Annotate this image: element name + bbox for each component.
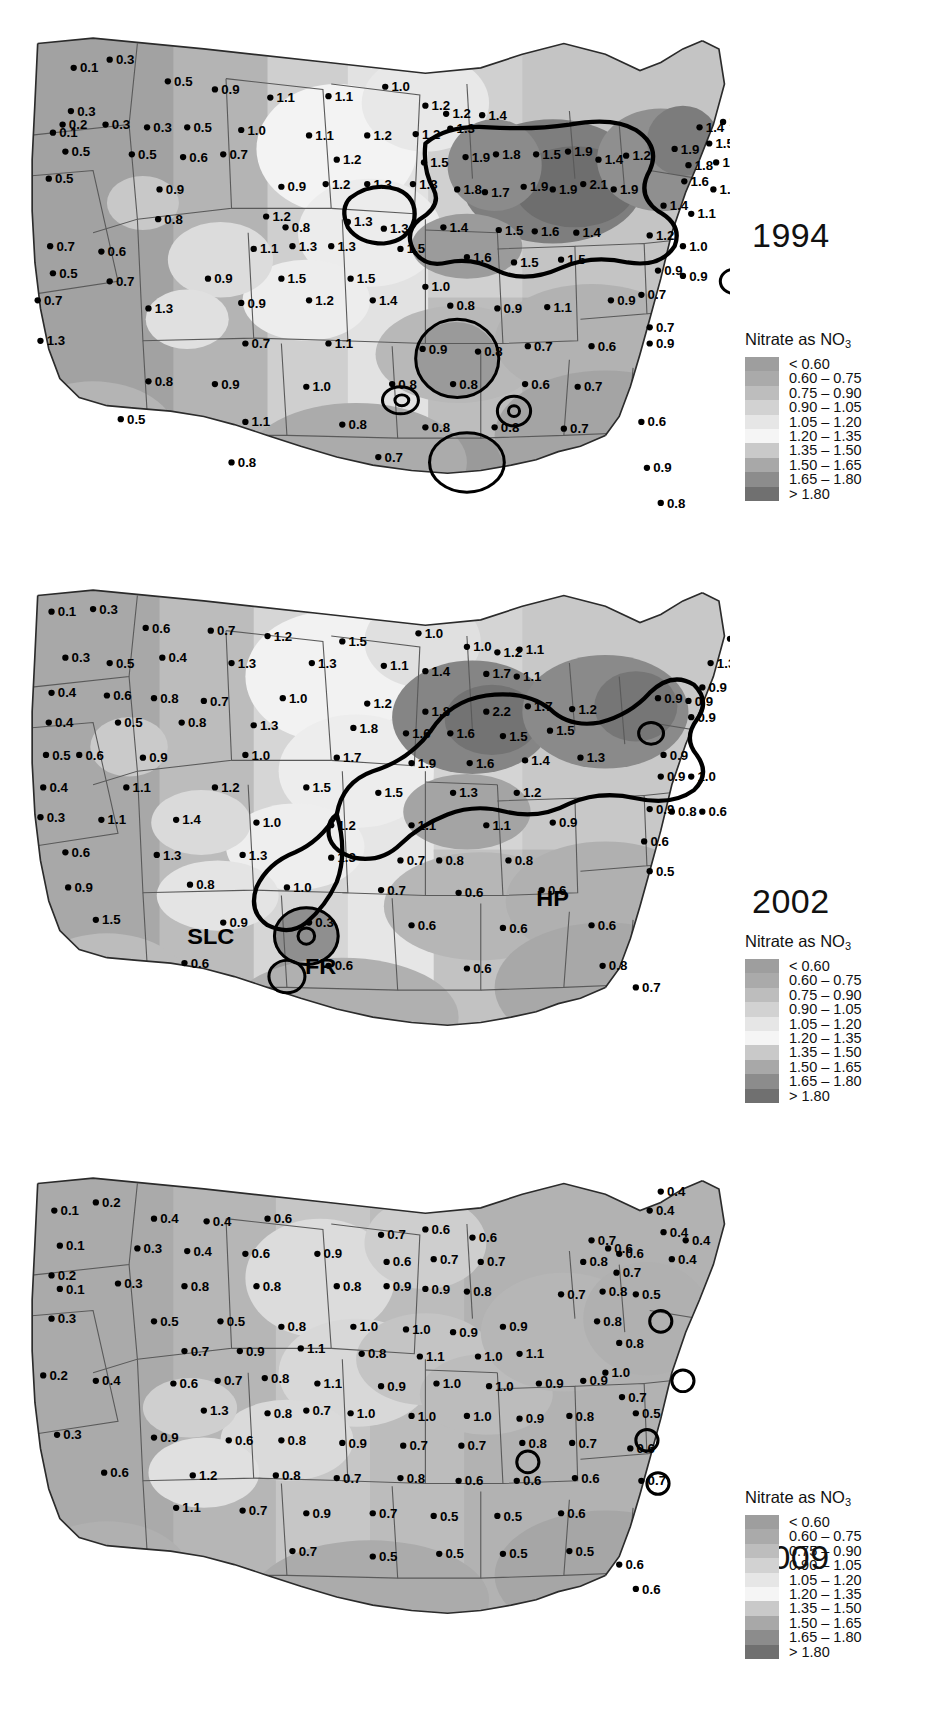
legend-label: 1.65 – 1.80 (789, 1074, 862, 1088)
sample-point-marker (455, 890, 461, 896)
sample-point-value: 0.6 (465, 886, 483, 901)
sample-point-marker (469, 1234, 475, 1240)
sample-point-marker (616, 1561, 622, 1567)
sample-point-marker (611, 186, 617, 192)
sample-point-value: 0.7 (379, 1506, 397, 1521)
sample-point-marker (464, 254, 470, 260)
sample-point-value: 1.8 (695, 158, 713, 173)
sample-point-value: 0.6 (598, 918, 616, 933)
legend-row: 1.20 – 1.35 (745, 1587, 936, 1601)
legend-label: 1.35 – 1.50 (789, 1045, 862, 1059)
sample-point-marker (410, 181, 416, 187)
sample-point-value: 0.8 (196, 877, 214, 892)
sample-point-value: 1.0 (689, 239, 707, 254)
sample-point-value: 1.3 (210, 1403, 228, 1418)
sample-point-value: 1.8 (360, 721, 378, 736)
sample-point-value: 0.9 (689, 269, 707, 284)
legend-label: 0.60 – 0.75 (789, 1529, 862, 1543)
sample-point-marker (303, 1510, 309, 1516)
sample-point-marker (638, 419, 644, 425)
sample-point-marker (558, 1510, 564, 1516)
sample-point-value: 0.8 (678, 804, 696, 819)
sample-point-value: 0.6 (709, 804, 727, 819)
legend-swatch (745, 959, 779, 973)
sample-point-marker (314, 1251, 320, 1257)
sample-point-marker (514, 790, 520, 796)
sample-point-value: 1.1 (182, 1501, 200, 1516)
sample-point-marker (647, 324, 653, 330)
sample-point-marker (43, 752, 49, 758)
sample-point-marker (450, 790, 456, 796)
sample-point-marker (339, 421, 345, 427)
sample-point-value: 1.8 (502, 147, 520, 162)
sample-point-marker (190, 1472, 196, 1478)
sample-point-value: 1.0 (495, 1379, 513, 1394)
sample-point-value: 0.8 (457, 298, 475, 313)
sample-point-marker (558, 257, 564, 263)
sample-point-marker (669, 1256, 675, 1262)
sample-point-marker (51, 1207, 57, 1213)
legend-title: Nitrate as NO3 (745, 330, 936, 350)
sample-point-marker (339, 1440, 345, 1446)
sample-point-marker (347, 276, 353, 282)
sample-point-marker (151, 1434, 157, 1440)
sample-point-value: 1.3 (390, 221, 408, 236)
sample-point-marker (683, 1237, 689, 1243)
sample-point-marker (118, 416, 124, 422)
sample-point-value: 0.3 (72, 650, 90, 665)
sample-point-marker (588, 1237, 594, 1243)
legend-row: > 1.80 (745, 1645, 936, 1659)
map-region-label: HP (536, 886, 569, 912)
legend-swatch (745, 1074, 779, 1088)
sample-point-value: 1.0 (289, 691, 307, 706)
sample-point-value: 1.5 (542, 147, 560, 162)
sample-point-value: 0.5 (174, 74, 192, 89)
sample-point-marker (572, 1475, 578, 1481)
sample-point-value: 0.6 (72, 845, 90, 860)
legend-label: 1.35 – 1.50 (789, 443, 862, 457)
sample-point-value: 0.9 (432, 1282, 450, 1297)
sample-point-marker (397, 857, 403, 863)
sample-point-value: 0.9 (697, 710, 715, 725)
map-canvas-2009: 0.10.20.40.40.60.70.60.60.10.30.40.60.90… (10, 1170, 730, 1670)
sample-point-value: 0.6 (252, 1247, 270, 1262)
sample-point-marker (613, 1270, 619, 1276)
sample-point-marker (215, 1378, 221, 1384)
sample-point-marker (647, 232, 653, 238)
sample-point-marker (408, 822, 414, 828)
sample-point-marker (680, 273, 686, 279)
legend-row: 1.65 – 1.80 (745, 1074, 936, 1088)
sample-point-value: 0.6 (191, 956, 209, 971)
sample-point-marker (334, 1283, 340, 1289)
sample-point-marker (450, 1329, 456, 1335)
sample-point-marker (536, 1380, 542, 1386)
legend-row: 0.60 – 0.75 (745, 973, 936, 987)
sample-point-value: 0.7 (249, 1503, 267, 1518)
sample-point-value: 0.8 (603, 1314, 621, 1329)
legend-label: 1.65 – 1.80 (789, 1630, 862, 1644)
legend-swatch (745, 371, 779, 385)
legend-swatch (745, 1587, 779, 1601)
sample-point-value: 0.8 (191, 1279, 209, 1294)
sample-point-marker (267, 94, 273, 100)
sample-point-value: 1.5 (407, 242, 425, 257)
sample-point-value: 1.9 (418, 756, 436, 771)
sample-point-value: 1.3 (260, 718, 278, 733)
sample-point-value: 0.8 (271, 1371, 289, 1386)
sample-point-value: 1.1 (324, 1376, 342, 1391)
sample-point-value: 0.9 (670, 748, 688, 763)
sample-point-marker (494, 305, 500, 311)
sample-point-marker (478, 1259, 484, 1265)
legend-row: 0.90 – 1.05 (745, 1002, 936, 1016)
sample-point-value: 1.0 (252, 748, 270, 763)
sample-point-marker (707, 660, 713, 666)
sample-point-value: 0.8 (529, 1436, 547, 1451)
sample-point-marker (62, 149, 68, 155)
sample-point-marker (350, 1324, 356, 1330)
sample-point-marker (201, 698, 207, 704)
sample-point-marker (660, 203, 666, 209)
legend-label: < 0.60 (789, 1515, 830, 1529)
sample-point-value: 0.1 (58, 604, 76, 619)
choropleth-map-1994: 0.10.30.50.91.11.11.01.21.21.40.30.20.10… (10, 30, 730, 530)
sample-point-value: 0.7 (578, 1436, 596, 1451)
